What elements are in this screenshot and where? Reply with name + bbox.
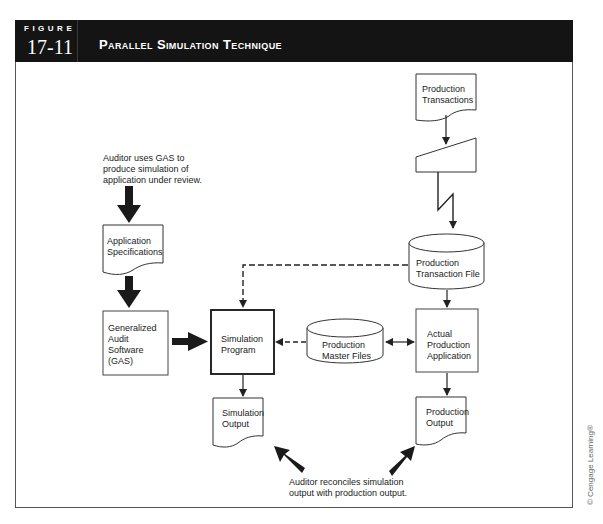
thick-arrow-to-prod-output [389, 446, 415, 476]
copyright-notice: © Cengage Learning® [586, 425, 595, 505]
production-master-files-label: Production Master Files [322, 340, 371, 362]
production-transactions-label: Production Transactions [422, 84, 473, 106]
gas-label: Generalized Audit Software (GAS) [108, 323, 157, 367]
flowchart [0, 0, 603, 524]
reconcile-note: Auditor reconciles simulation output wit… [289, 477, 407, 499]
simulation-output-label: Simulation Output [222, 408, 264, 430]
thick-arrow-down-1 [117, 186, 141, 223]
actual-production-application-label: Actual Production Application [427, 329, 471, 362]
application-specifications-label: Application Specifications [107, 236, 163, 258]
thick-arrow-to-sim-output [274, 446, 305, 473]
production-output-label: Production Output [426, 407, 469, 429]
communication-link [438, 172, 453, 228]
thick-arrow-down-2 [117, 276, 141, 308]
production-transaction-file-label: Production Transaction File [416, 258, 480, 280]
simulation-program-label: Simulation Program [221, 334, 263, 356]
auditor-note: Auditor uses GAS to produce simulation o… [103, 153, 202, 186]
dashed-link-ptf-to-sim [243, 265, 408, 307]
thick-arrow-right [172, 332, 208, 351]
